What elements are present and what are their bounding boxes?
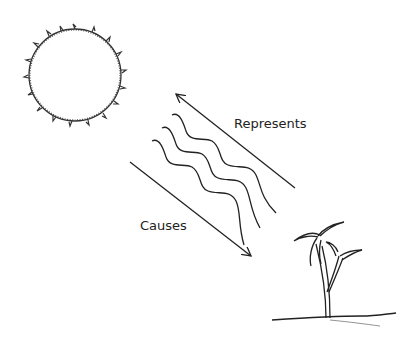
causes-arrow xyxy=(130,162,251,256)
represents-label: Represents xyxy=(234,116,307,131)
causes-label: Causes xyxy=(140,218,187,233)
represents-arrow xyxy=(176,94,295,188)
wave-icon xyxy=(162,127,260,228)
sun-icon xyxy=(24,24,126,126)
diagram-drawing xyxy=(0,0,415,343)
seedling-icon xyxy=(272,222,396,326)
diagram-canvas: Represents Causes xyxy=(0,0,415,343)
